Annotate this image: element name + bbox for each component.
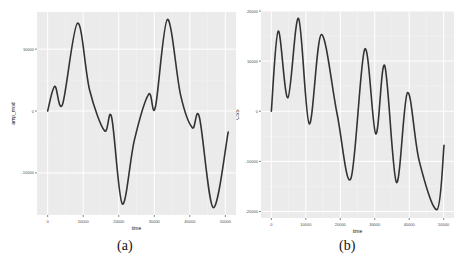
x-axis-label: time — [353, 228, 363, 234]
y-tick-label: 20000 — [247, 9, 259, 14]
y-tick-label: -20000 — [246, 209, 259, 214]
y-tick-label: 0 — [256, 109, 259, 114]
x-tick-label: 0 — [270, 222, 273, 227]
chart-b-plot: 0100002000030000400005000020000100000-10… — [236, 0, 466, 235]
x-tick-label: 50000 — [220, 219, 232, 224]
x-tick-label: 0 — [47, 219, 50, 224]
panel-b: 0100002000030000400005000020000100000-10… — [236, 0, 466, 235]
x-tick-label: 10000 — [78, 219, 90, 224]
y-axis-label: CSS — [236, 109, 240, 120]
x-tick-label: 20000 — [335, 222, 347, 227]
y-tick-label: -10000 — [246, 159, 259, 164]
y-axis-label: amp_mod — [10, 102, 16, 124]
caption-a: (a) — [117, 238, 133, 254]
x-tick-label: 40000 — [184, 219, 196, 224]
panel-a: 01000020000300004000050000100000-10000ti… — [0, 0, 240, 235]
x-tick-label: 10000 — [300, 222, 312, 227]
y-tick-label: 0 — [32, 109, 35, 114]
x-tick-label: 30000 — [149, 219, 161, 224]
x-tick-label: 20000 — [113, 219, 125, 224]
x-tick-label: 30000 — [369, 222, 381, 227]
y-tick-label: 10000 — [23, 47, 35, 52]
chart-a-plot: 01000020000300004000050000100000-10000ti… — [0, 0, 240, 235]
caption-b: (b) — [339, 238, 355, 254]
x-tick-label: 50000 — [438, 222, 450, 227]
x-tick-label: 40000 — [404, 222, 416, 227]
y-tick-label: -10000 — [22, 170, 35, 175]
x-axis-label: time — [132, 225, 142, 231]
y-tick-label: 10000 — [247, 59, 259, 64]
